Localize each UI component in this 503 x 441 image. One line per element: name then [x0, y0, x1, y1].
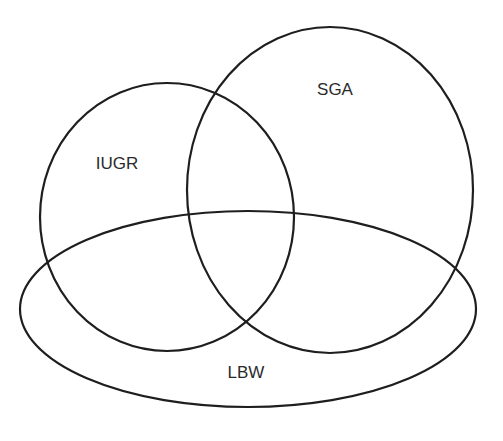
venn-diagram: IUGR SGA LBW [0, 0, 503, 441]
lbw-label: LBW [228, 363, 265, 382]
iugr-label: IUGR [96, 154, 139, 173]
sga-label: SGA [317, 80, 354, 99]
sga-circle [187, 27, 473, 353]
